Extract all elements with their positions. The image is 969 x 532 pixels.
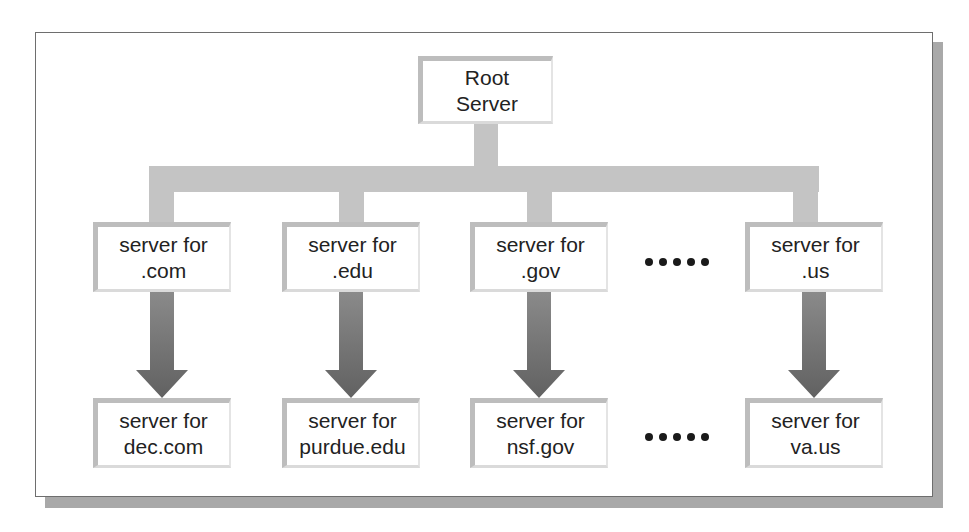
ellipsis-dot [659,258,667,266]
stem-edu-connector [339,190,364,226]
server-purdue-edu-label-line1: server for [308,408,397,434]
server-dec-com-label-line2: dec.com [124,434,203,460]
horizontal-connector-bar [149,166,819,192]
ellipsis-dot [645,258,653,266]
server-us-node: server for .us [745,222,883,292]
server-gov-node: server for .gov [470,222,608,292]
stem-us-connector [793,190,818,226]
ellipsis-dot [673,433,681,441]
ellipsis-dot [645,433,653,441]
server-us-label-line1: server for [771,232,860,258]
server-va-us-node: server for va.us [745,398,883,468]
stem-gov-connector [527,190,552,226]
level1-ellipsis-dots [645,258,709,266]
ellipsis-dot [687,258,695,266]
server-nsf-gov-label-line2: nsf.gov [507,434,575,460]
server-gov-label-line2: .gov [521,258,561,284]
server-com-label-line2: .com [141,258,187,284]
server-purdue-edu-node: server for purdue.edu [282,398,420,468]
server-purdue-edu-label-line2: purdue.edu [299,434,405,460]
server-edu-node: server for .edu [282,222,420,292]
root-server-label-line1: Root [465,65,509,91]
server-va-us-label-line1: server for [771,408,860,434]
ellipsis-dot [673,258,681,266]
root-stem-connector [474,120,498,170]
server-edu-label-line2: .edu [332,258,373,284]
root-server-label-line2: Server [456,91,518,117]
server-dec-com-label-line1: server for [119,408,208,434]
server-us-label-line2: .us [801,258,829,284]
ellipsis-dot [659,433,667,441]
ellipsis-dot [701,433,709,441]
arrow-down-icon [325,292,377,398]
arrow-down-icon [788,292,840,398]
root-server-node: Root Server [418,56,553,124]
arrow-down-icon [513,292,565,398]
server-nsf-gov-node: server for nsf.gov [470,398,608,468]
server-va-us-label-line2: va.us [790,434,840,460]
arrow-down-icon [136,292,188,398]
server-nsf-gov-label-line1: server for [496,408,585,434]
server-com-label-line1: server for [119,232,208,258]
level2-ellipsis-dots [645,433,709,441]
stem-com-connector [149,190,174,226]
server-com-node: server for .com [93,222,231,292]
ellipsis-dot [701,258,709,266]
server-edu-label-line1: server for [308,232,397,258]
ellipsis-dot [687,433,695,441]
server-gov-label-line1: server for [496,232,585,258]
server-dec-com-node: server for dec.com [93,398,231,468]
